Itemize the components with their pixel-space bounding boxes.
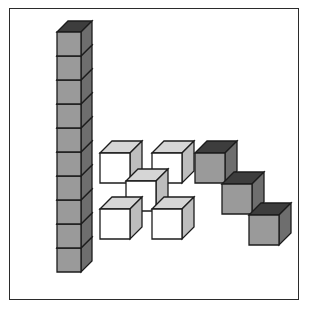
figure-border xyxy=(9,8,299,300)
figure-root: Cube arrangement figure xyxy=(0,0,319,318)
figure-title: Cube arrangement figure xyxy=(0,0,1,1)
